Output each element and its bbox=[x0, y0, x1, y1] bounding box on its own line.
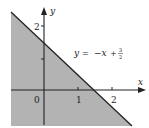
svg-text:−x: −x bbox=[94, 48, 107, 58]
svg-text:+: + bbox=[110, 49, 117, 58]
x-axis-arrow-icon bbox=[138, 87, 146, 93]
equation-label: y = −x + 3 2 bbox=[73, 47, 123, 60]
x-tick-label-2: 2 bbox=[111, 95, 117, 105]
svg-text:2: 2 bbox=[119, 54, 122, 60]
y-tick-label-2: 2 bbox=[34, 22, 40, 32]
graph-canvas: y x 2 0 1 2 y = −x + 3 2 bbox=[0, 0, 149, 128]
svg-text:3: 3 bbox=[119, 47, 122, 53]
x-tick-label-1: 1 bbox=[76, 95, 82, 105]
x-axis-label: x bbox=[138, 77, 143, 87]
svg-text:y: y bbox=[73, 48, 80, 58]
svg-text:=: = bbox=[82, 49, 89, 58]
y-axis-arrow-icon bbox=[41, 7, 47, 15]
y-axis-label: y bbox=[49, 6, 56, 16]
x-tick-label-0: 0 bbox=[34, 95, 40, 105]
